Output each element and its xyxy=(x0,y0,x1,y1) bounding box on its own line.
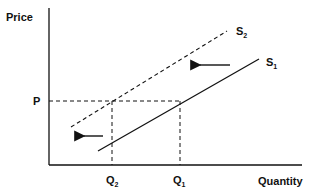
s2-label: S2 xyxy=(236,25,247,39)
s1-label: S1 xyxy=(266,56,277,70)
supply-shift-diagram: Price Quantity P S2 S1 Q2 Q1 xyxy=(0,0,317,196)
axes xyxy=(49,8,302,165)
price-level-label: P xyxy=(33,95,40,107)
supply-curve-s1 xyxy=(98,59,259,151)
guide-lines xyxy=(49,101,180,165)
q1-label: Q1 xyxy=(173,174,186,188)
y-axis-label: Price xyxy=(6,11,33,23)
q2-label: Q2 xyxy=(106,174,119,188)
x-axis-label: Quantity xyxy=(258,175,303,187)
supply-curve-s2 xyxy=(71,31,227,127)
